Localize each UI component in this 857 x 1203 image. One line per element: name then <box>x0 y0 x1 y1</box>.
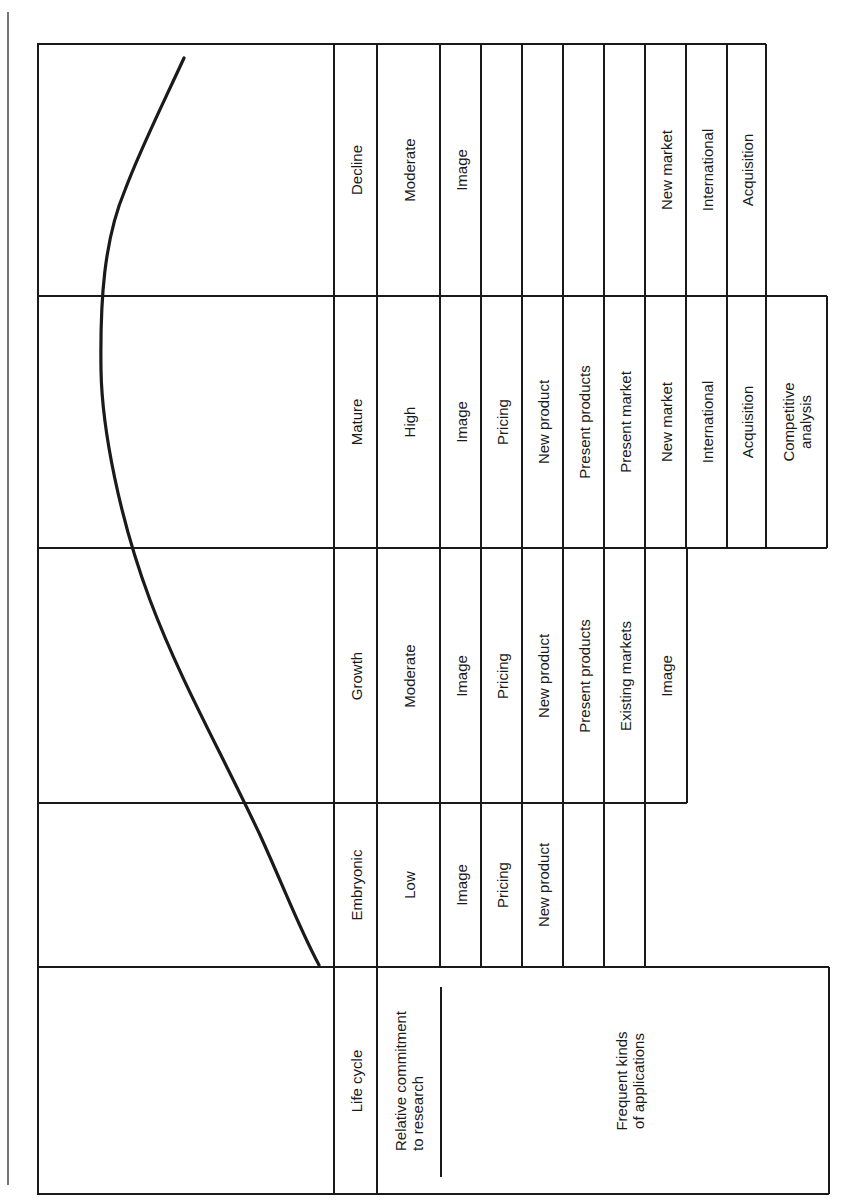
header-commitment-rule <box>440 987 442 1177</box>
life-cycle-diagram: Life cycle Relative commitment to resear… <box>0 0 857 1203</box>
life-cycle-curve <box>101 58 319 965</box>
grid-lines <box>0 0 857 1203</box>
curve-panel-border <box>38 44 334 1194</box>
